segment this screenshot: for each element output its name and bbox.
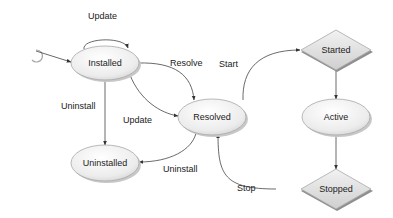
edge-stop xyxy=(218,134,276,189)
node-label-uninstalled: Uninstalled xyxy=(83,158,128,168)
node-label-stopped: Stopped xyxy=(319,184,353,194)
edge-label-update: Update xyxy=(123,115,152,125)
edge-start xyxy=(243,50,300,100)
edge-update xyxy=(130,75,178,116)
edge-label-uninstall-installed: Uninstall xyxy=(61,101,96,111)
edge-label-uninstall-resolved: Uninstall xyxy=(163,164,198,174)
node-uninstalled[interactable]: Uninstalled xyxy=(71,145,141,183)
node-label-resolved: Resolved xyxy=(193,112,231,122)
edge-resolve xyxy=(138,63,194,100)
edge-label-resolve: Resolve xyxy=(170,58,203,68)
edge-label-stop: Stop xyxy=(237,183,256,193)
node-active[interactable]: Active xyxy=(302,99,372,137)
edge-label-update-self: Update xyxy=(88,11,117,21)
node-label-started: Started xyxy=(321,45,350,55)
node-label-active: Active xyxy=(324,112,349,122)
node-installed[interactable]: Installed xyxy=(71,46,141,82)
edge-label-start: Start xyxy=(219,59,239,69)
node-resolved[interactable]: Resolved xyxy=(178,99,248,137)
edge-uninstall-resolved xyxy=(139,133,196,162)
node-label-installed: Installed xyxy=(88,58,122,68)
node-stopped[interactable]: Stopped xyxy=(301,169,373,211)
state-diagram: Update Resolve Update Uninstall Uninstal… xyxy=(0,0,393,218)
node-started[interactable]: Started xyxy=(301,30,373,72)
